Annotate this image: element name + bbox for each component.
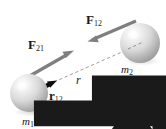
diagram-canvas [0, 0, 166, 129]
mass-1-subscript: 1 [30, 120, 34, 129]
mass-2-base: m [121, 63, 129, 75]
unit-vector-r12-base: r [49, 88, 55, 103]
mass-2-label: m2 [121, 60, 133, 77]
mass-2-highlight [128, 31, 138, 39]
force-12-label: F 12 [86, 11, 102, 28]
force-21-label: F 21 [28, 36, 44, 53]
separation-distance-symbol: r [76, 73, 81, 87]
force-12-vector-symbol: F [86, 11, 94, 27]
separation-distance-label: r [76, 71, 81, 87]
force-21-vector-symbol: F [28, 36, 36, 52]
mass-2-subscript: 2 [129, 68, 133, 77]
unit-vector-r12-label: r 12 [49, 87, 63, 104]
mass-1-sphere [10, 74, 48, 112]
mass-1-base: m [22, 115, 30, 127]
mass-1-label: m1 [22, 112, 34, 129]
mass-1-highlight [17, 82, 27, 90]
force-21-arrow [27, 51, 74, 78]
force-21-subscript: 21 [36, 44, 44, 53]
unit-vector-r12-subscript: 12 [55, 95, 63, 104]
force-21-base: F [28, 37, 36, 52]
force-12-subscript: 12 [94, 19, 102, 28]
force-12-base: F [86, 12, 94, 27]
unit-vector-r12-symbol: r [49, 87, 55, 103]
gravitation-force-diagram: F 21 F 12 r 12 r m1 m2 [0, 0, 166, 129]
